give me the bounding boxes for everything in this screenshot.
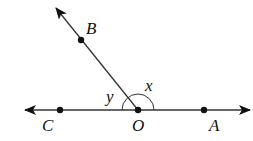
ray-ob <box>56 8 138 110</box>
label-o: O <box>132 116 144 135</box>
label-b: B <box>86 19 97 38</box>
angle-diagram: B O C A x y <box>0 0 253 141</box>
point-b <box>78 37 84 43</box>
point-c <box>57 107 63 113</box>
diagram-canvas: B O C A x y <box>0 0 253 141</box>
point-a <box>201 107 207 113</box>
point-o <box>135 107 141 113</box>
label-c: C <box>42 116 54 135</box>
label-a: A <box>208 116 220 135</box>
label-angle-y: y <box>104 87 114 106</box>
label-angle-x: x <box>144 76 153 95</box>
